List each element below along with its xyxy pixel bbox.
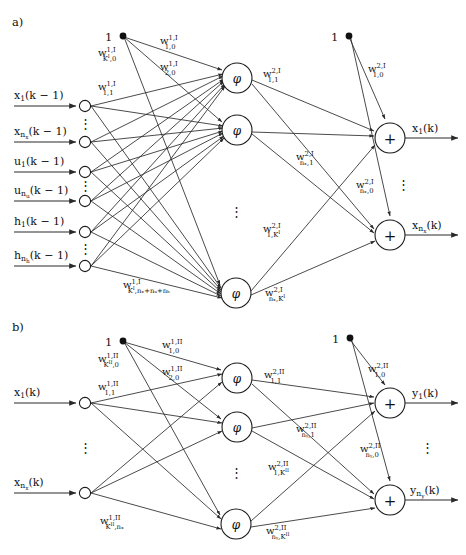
panel-b-input-nodes: ⋮ bbox=[79, 397, 92, 498]
weight-label-w1-1-0: w1,II1,0 bbox=[162, 338, 183, 355]
weight-label-w1-1-0: w1,I1,0 bbox=[160, 34, 178, 51]
input-label-x1: x1(k) bbox=[14, 386, 40, 400]
input-node bbox=[79, 397, 90, 408]
sum-layer-ellipsis: ⋮ bbox=[397, 177, 410, 192]
panel-b-weight-labels-l1: w1,II1,0 w1,II2,0 w1,IIKII,0 w1,II1,1 w1… bbox=[98, 338, 183, 531]
panel-b-tag: b) bbox=[12, 320, 24, 334]
weight-label-w2-1-K: w2,I1,KI bbox=[263, 222, 281, 239]
sum-node-symbol: + bbox=[384, 130, 397, 148]
hidden-neuron-symbol: φ bbox=[232, 518, 241, 532]
edge-hid-sum bbox=[252, 384, 374, 494]
edge-in-hid bbox=[91, 172, 221, 292]
weight-label-w1-2-0: w1,I2,0 bbox=[160, 60, 178, 77]
weight-label-w2-1-0: w2,II1,0 bbox=[368, 362, 389, 379]
hidden-neuron-symbol: φ bbox=[232, 287, 241, 301]
weight-label-w1-K-n: w1,IIKII,nₓ bbox=[100, 514, 124, 531]
weight-label-w1-1-1: w1,I1,1 bbox=[98, 80, 116, 97]
input-ellipsis: ⋮ bbox=[79, 178, 92, 193]
input-label-h1: h1(k − 1) bbox=[14, 215, 64, 229]
sum-layer-ellipsis: ⋮ bbox=[421, 440, 434, 455]
panel-a: a) bbox=[12, 15, 458, 308]
output-label-xnx: xnx(k) bbox=[412, 219, 442, 234]
panel-a-tag: a) bbox=[12, 15, 23, 29]
weight-label-w1-1-1: w1,II1,1 bbox=[98, 380, 119, 397]
edge-in-hid bbox=[91, 142, 221, 290]
weight-label-w1-K-0: w1,IIKII,0 bbox=[98, 352, 119, 369]
edge-in-hid bbox=[91, 81, 224, 201]
edge-bias-sum bbox=[350, 39, 385, 119]
edge-in-hid bbox=[91, 138, 224, 266]
bias-node-layer2 bbox=[347, 335, 354, 342]
neural-network-diagram: a) bbox=[0, 0, 466, 555]
weight-label-w1-2-0: w1,II2,0 bbox=[162, 365, 183, 382]
edge-in-hid bbox=[91, 128, 223, 142]
panel-a-sum-nodes: + + ⋮ bbox=[375, 123, 410, 250]
weight-label-w2-ny-K: w2,IInᵧ,KII bbox=[266, 524, 290, 541]
output-label-x1: x1(k) bbox=[412, 122, 438, 136]
panel-b-input-arrows bbox=[14, 403, 76, 493]
weight-label-w2-1-K: w2,II1,KII bbox=[268, 460, 289, 477]
input-ellipsis: ⋮ bbox=[79, 440, 92, 455]
edge-hid-sum bbox=[251, 145, 375, 291]
input-node bbox=[79, 226, 90, 237]
hidden-neuron-symbol: φ bbox=[233, 421, 242, 435]
weight-label-w2-ny-1: w2,IInᵧ,1 bbox=[296, 422, 317, 439]
bias-label-layer2: 1 bbox=[331, 30, 338, 44]
input-node bbox=[79, 487, 90, 498]
weight-label-w1-K-n: w1,IKI,nₓ+nᵤ+nₕ bbox=[123, 278, 170, 295]
bias-label-layer1: 1 bbox=[105, 30, 112, 44]
weight-label-w2-nx-K: w2,Inₓ,KI bbox=[265, 286, 285, 303]
sum-node-symbol: + bbox=[384, 227, 397, 245]
sum-node-symbol: + bbox=[384, 492, 397, 510]
input-node bbox=[79, 100, 90, 111]
output-label-y1: y1(k) bbox=[411, 387, 438, 401]
weight-label-w2-nx-1: w2,Inₓ,1 bbox=[296, 150, 314, 167]
input-label-x1: x1(k − 1) bbox=[14, 89, 64, 103]
input-node bbox=[79, 136, 90, 147]
input-node bbox=[79, 195, 90, 206]
edge-in-hid bbox=[91, 133, 223, 201]
panel-b-input-labels: x1(k) xnx(k) bbox=[14, 386, 44, 491]
panel-b-layer2-edges bbox=[251, 380, 375, 527]
input-label-unu: unu(k − 1) bbox=[14, 184, 68, 199]
bias-node-layer1 bbox=[120, 338, 127, 345]
panel-a-weight-labels-l2: w2,I1,0 w2,I1,1 w2,Inₓ,1 w2,Inₓ,0 w2,I1,… bbox=[263, 62, 386, 303]
sum-node-symbol: + bbox=[384, 395, 397, 413]
input-node bbox=[79, 166, 90, 177]
hidden-layer-ellipsis: ⋮ bbox=[230, 204, 243, 219]
hidden-neuron-symbol: φ bbox=[233, 72, 242, 86]
output-label-yny: yny(k) bbox=[409, 484, 440, 500]
edge-in-hid bbox=[91, 403, 221, 519]
hidden-neuron-symbol: φ bbox=[233, 372, 242, 386]
weight-label-w1-K-0: w1,IKI,0 bbox=[98, 46, 116, 63]
figure-canvas: a) bbox=[0, 0, 466, 555]
input-label-xnx: xnx(k − 1) bbox=[14, 125, 67, 140]
bias-label-layer1: 1 bbox=[105, 335, 112, 349]
weight-label-w2-nx-0: w2,Inₓ,0 bbox=[356, 178, 374, 195]
panel-b-hidden-neurons: φ φ φ ⋮ bbox=[221, 363, 252, 539]
edge-in-hid bbox=[91, 86, 225, 266]
input-label-u1: u1(k − 1) bbox=[14, 155, 64, 169]
panel-a-input-labels: x1(k − 1) xnx(k − 1) u1(k − 1) unu(k − 1… bbox=[14, 89, 68, 264]
hidden-neuron-symbol: φ bbox=[233, 124, 242, 138]
panel-a-output-labels: x1(k) xnx(k) bbox=[412, 122, 442, 234]
input-ellipsis: ⋮ bbox=[79, 241, 92, 256]
input-label-hnh: hnh(k − 1) bbox=[14, 249, 68, 264]
weight-label-w2-1-0: w2,I1,0 bbox=[368, 62, 386, 79]
panel-a-input-nodes: ⋮ ⋮ ⋮ bbox=[79, 100, 92, 271]
input-ellipsis: ⋮ bbox=[79, 116, 92, 131]
edge-hid-sum bbox=[252, 132, 374, 136]
edge-in-hid bbox=[91, 106, 221, 288]
input-node bbox=[79, 260, 90, 271]
panel-b-layer1-edges bbox=[91, 374, 222, 529]
weight-label-w2-1-1: w2,I1,1 bbox=[263, 67, 281, 84]
bias-label-layer2: 1 bbox=[332, 332, 339, 346]
hidden-layer-ellipsis: ⋮ bbox=[230, 465, 243, 480]
weight-label-w2-ny-0: w2,IInᵧ,0 bbox=[360, 442, 381, 459]
input-label-xnx: xnx(k) bbox=[14, 476, 44, 491]
panel-a-hidden-neurons: φ φ φ ⋮ bbox=[221, 63, 252, 308]
bias-node-layer1 bbox=[120, 33, 127, 40]
panel-b: b) 1 φ φ φ bbox=[12, 320, 458, 541]
bias-node-layer2 bbox=[346, 33, 353, 40]
